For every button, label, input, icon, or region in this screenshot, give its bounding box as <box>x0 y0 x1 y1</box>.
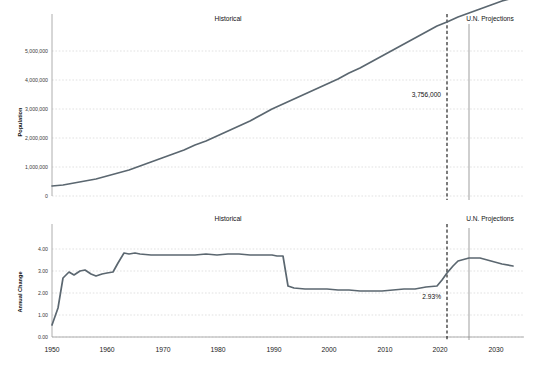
xtick-1990: 1990 <box>266 346 281 353</box>
xtick-2000: 2000 <box>321 346 336 353</box>
population-ytick-2: 2,000,000 <box>25 135 48 141</box>
xtick-1970: 1970 <box>155 346 170 353</box>
annual-change-annotation: 2.93% <box>422 293 441 300</box>
xtick-1960: 1960 <box>99 346 114 353</box>
population-projection-label: U.N. Projections <box>466 15 514 23</box>
annual-change-projection-label: U.N. Projections <box>466 215 514 223</box>
chart-svg: 0 1,000,000 2,000,000 3,000,000 4,000,00… <box>0 0 537 378</box>
annual-change-ytick-2: 2.00 <box>38 290 48 296</box>
population-ytick-4: 4,000,000 <box>25 77 48 83</box>
population-ytick-1: 1,000,000 <box>25 164 48 170</box>
xtick-2020: 2020 <box>432 346 447 353</box>
annual-change-series-line <box>52 253 513 325</box>
annual-change-axis-label: Annual Change <box>17 271 23 312</box>
xtick-1950: 1950 <box>44 346 59 353</box>
population-ytick-0: 0 <box>45 193 48 199</box>
annual-change-ytick-0: 0.00 <box>38 334 48 340</box>
annual-change-historical-label: Historical <box>214 215 242 222</box>
population-gridlines <box>52 51 524 196</box>
chart-figure: 0 1,000,000 2,000,000 3,000,000 4,000,00… <box>0 0 537 378</box>
annual-change-gridlines <box>52 249 524 337</box>
population-historical-label: Historical <box>214 15 242 22</box>
xtick-2010: 2010 <box>377 346 392 353</box>
xtick-2030: 2030 <box>488 346 503 353</box>
annual-change-ytick-1: 1.00 <box>38 312 48 318</box>
population-panel: 0 1,000,000 2,000,000 3,000,000 4,000,00… <box>17 0 524 200</box>
annual-change-ytick-4: 4.00 <box>38 246 48 252</box>
population-axis-label: Population <box>17 107 23 136</box>
population-annotation: 3,756,000 <box>412 91 442 98</box>
annual-change-ytick-3: 3.00 <box>38 268 48 274</box>
xtick-1980: 1980 <box>210 346 225 353</box>
population-series-line <box>52 0 513 186</box>
population-ytick-3: 3,000,000 <box>25 106 48 112</box>
population-ytick-5: 5,000,000 <box>25 48 48 54</box>
annual-change-panel: 0.00 1.00 2.00 3.00 4.00 Annual Change H… <box>17 215 524 353</box>
